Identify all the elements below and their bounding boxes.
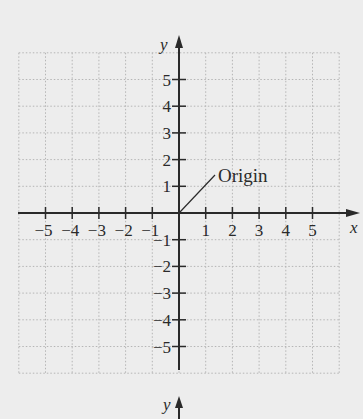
origin-label: Origin bbox=[218, 165, 268, 186]
y-axis-arrow-icon bbox=[175, 35, 183, 48]
y-tick-label: 5 bbox=[163, 71, 172, 90]
x-tick-label: −3 bbox=[88, 221, 106, 240]
second-y-axis-label: y bbox=[161, 395, 171, 414]
y-tick-label: 1 bbox=[163, 177, 172, 196]
coordinate-plane: y x −5−4−3−2−11234554321−1−2−3−4−5 Origi… bbox=[0, 0, 363, 419]
x-tick-label: 1 bbox=[201, 221, 210, 240]
y-tick-label: −1 bbox=[153, 231, 171, 250]
y-tick-label: 3 bbox=[163, 124, 172, 143]
y-tick-label: −5 bbox=[153, 338, 171, 357]
x-tick-label: 5 bbox=[308, 221, 317, 240]
x-tick-label: 3 bbox=[255, 221, 264, 240]
x-tick-label: 4 bbox=[282, 221, 291, 240]
origin-annotation: Origin bbox=[180, 165, 268, 212]
y-tick-label: −4 bbox=[153, 311, 172, 330]
y-tick-label: 4 bbox=[163, 97, 172, 116]
y-tick-label: 2 bbox=[163, 151, 172, 170]
second-plane-partial: y bbox=[161, 395, 183, 419]
y-tick-label: −2 bbox=[153, 257, 171, 276]
y-axis-label: y bbox=[158, 35, 168, 54]
x-tick-label: −4 bbox=[61, 221, 80, 240]
x-axis-label: x bbox=[349, 218, 358, 237]
x-tick-label: 2 bbox=[228, 221, 237, 240]
x-tick-label: −5 bbox=[34, 221, 52, 240]
x-axis-arrow-icon bbox=[346, 209, 360, 217]
second-y-axis-arrow-icon bbox=[175, 396, 183, 408]
y-tick-label: −3 bbox=[153, 284, 171, 303]
x-tick-label: −2 bbox=[115, 221, 133, 240]
origin-leader-line bbox=[180, 175, 215, 212]
